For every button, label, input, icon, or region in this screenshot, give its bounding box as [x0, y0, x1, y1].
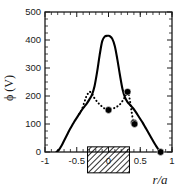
- data-point-marker: [157, 149, 164, 156]
- y-tick-label: 500: [25, 6, 41, 17]
- y-tick-label: 400: [25, 34, 41, 45]
- x-tick-label: -0.5: [69, 155, 85, 166]
- y-tick-label: 100: [25, 118, 41, 129]
- y-axis-title: ϕ (V): [2, 75, 16, 101]
- plot-area-background: [45, 12, 172, 152]
- y-axis-tick-labels: 0100200300400500: [25, 6, 41, 157]
- x-tick-label: -1: [41, 155, 49, 166]
- data-point-marker: [124, 88, 131, 95]
- chart-figure: -1-0.500.51 0100200300400500 r/a ϕ (V): [0, 0, 193, 189]
- y-tick-label: 0: [36, 146, 41, 157]
- x-tick-label: 0: [106, 155, 111, 166]
- x-tick-label: 0.5: [134, 155, 147, 166]
- x-axis-title: r/a: [152, 172, 168, 187]
- x-tick-label: 1: [169, 155, 174, 166]
- data-point-marker: [105, 107, 112, 114]
- y-tick-label: 200: [25, 90, 41, 101]
- x-axis-tick-labels: -1-0.500.51: [41, 155, 175, 166]
- potential-profile-chart: -1-0.500.51 0100200300400500 r/a ϕ (V): [0, 0, 193, 189]
- y-tick-label: 300: [25, 62, 41, 73]
- data-point-marker: [131, 121, 138, 128]
